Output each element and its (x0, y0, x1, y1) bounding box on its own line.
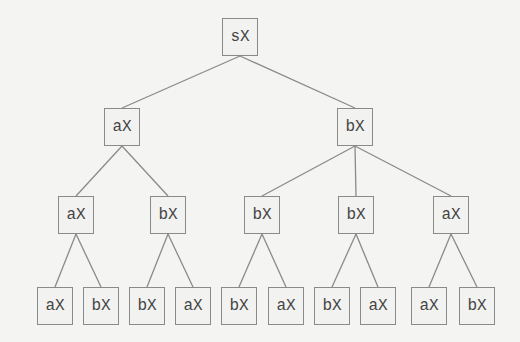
node-label: bX (322, 297, 341, 315)
tree-edge (332, 234, 356, 287)
node-label: bX (137, 297, 156, 315)
tree-edge (122, 146, 168, 196)
tree-node-bX-level-1: bX (337, 108, 373, 146)
tree-node-bX-level-3: bX (314, 287, 350, 325)
tree-node-bX-level-2: bX (150, 196, 186, 234)
tree-node-aX-level-3: aX (411, 287, 447, 325)
node-label: aX (183, 297, 202, 315)
tree-node-bX-level-3: bX (129, 287, 165, 325)
tree-edge (76, 234, 101, 287)
tree-node-sX-level-0: sX (222, 18, 258, 56)
tree-node-bX-level-2: bX (244, 196, 280, 234)
node-label: bX (346, 206, 365, 224)
tree-edge (262, 234, 286, 287)
tree-edge (355, 146, 451, 196)
node-label: bX (252, 206, 271, 224)
node-label: aX (276, 297, 295, 315)
tree-edge (239, 234, 262, 287)
tree-edge (168, 234, 193, 287)
tree-edge (122, 56, 240, 108)
node-label: aX (45, 297, 64, 315)
tree-node-aX-level-2: aX (58, 196, 94, 234)
node-label: bX (467, 297, 486, 315)
tree-node-bX-level-3: bX (459, 287, 495, 325)
tree-edge (429, 234, 451, 287)
tree-node-bX-level-3: bX (83, 287, 119, 325)
tree-edge (147, 234, 168, 287)
node-label: aX (112, 118, 131, 136)
tree-edge (451, 234, 477, 287)
node-label: sX (230, 28, 249, 46)
node-label: bX (158, 206, 177, 224)
tree-node-aX-level-3: aX (175, 287, 211, 325)
node-label: aX (441, 206, 460, 224)
tree-edge (356, 234, 378, 287)
tree-node-aX-level-2: aX (433, 196, 469, 234)
node-label: bX (229, 297, 248, 315)
tree-node-bX-level-2: bX (338, 196, 374, 234)
node-label: bX (345, 118, 364, 136)
tree-edge (262, 146, 355, 196)
tree-node-aX-level-3: aX (360, 287, 396, 325)
tree-node-aX-level-3: aX (268, 287, 304, 325)
node-label: aX (66, 206, 85, 224)
node-label: aX (419, 297, 438, 315)
tree-node-aX-level-3: aX (37, 287, 73, 325)
tree-node-aX-level-1: aX (104, 108, 140, 146)
node-label: bX (91, 297, 110, 315)
tree-edge (355, 146, 356, 196)
tree-edge (240, 56, 355, 108)
tree-edge (76, 146, 122, 196)
node-label: aX (368, 297, 387, 315)
tree-edge (55, 234, 76, 287)
tree-node-bX-level-3: bX (221, 287, 257, 325)
